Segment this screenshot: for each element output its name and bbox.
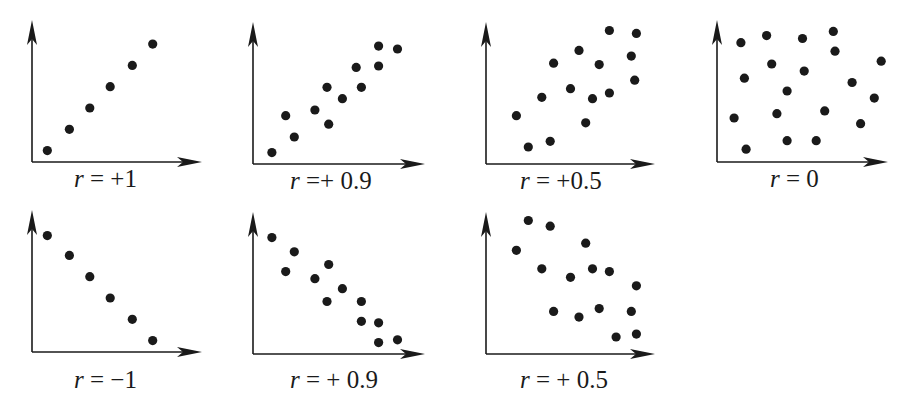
data-point xyxy=(537,264,546,273)
data-point xyxy=(595,304,604,313)
data-point xyxy=(43,231,52,240)
data-point xyxy=(357,297,366,306)
data-point xyxy=(595,60,604,69)
data-point xyxy=(281,267,290,276)
data-point xyxy=(630,76,639,85)
data-point xyxy=(627,307,636,316)
data-point xyxy=(632,281,641,290)
data-point xyxy=(762,31,771,40)
panel-label-r-plus-0-9-lower: r = + 0.9 xyxy=(290,367,378,392)
data-point xyxy=(324,260,333,269)
data-point xyxy=(549,307,558,316)
data-point xyxy=(812,136,821,145)
data-point xyxy=(612,332,621,341)
data-point xyxy=(740,74,749,83)
label-variable: r xyxy=(290,167,300,194)
label-variable: r xyxy=(520,366,530,393)
label-variable: r xyxy=(74,165,84,192)
data-point xyxy=(783,86,792,95)
data-point xyxy=(742,145,751,154)
data-point xyxy=(627,52,636,61)
data-point xyxy=(281,111,290,120)
label-value: = +0.5 xyxy=(530,167,602,194)
data-point xyxy=(549,59,558,68)
data-point xyxy=(322,83,331,92)
label-variable: r xyxy=(290,366,300,393)
data-point xyxy=(605,26,614,35)
data-point xyxy=(512,246,521,255)
scatter-panel-6 xyxy=(248,212,425,359)
label-value: = 0 xyxy=(780,165,819,192)
data-point xyxy=(148,40,157,49)
panel-label-r-zero: r = 0 xyxy=(770,166,819,191)
label-value: = + 0.5 xyxy=(530,366,608,393)
correlation-figure: r = +1 r =+ 0.9 r = +0.5 r = 0 r = −1 r … xyxy=(0,0,898,399)
data-point xyxy=(43,146,52,155)
data-point xyxy=(798,34,807,43)
scatter-panel-3 xyxy=(481,22,655,169)
data-point xyxy=(290,247,299,256)
data-point xyxy=(856,119,865,128)
data-point xyxy=(546,137,555,146)
data-point xyxy=(374,338,383,347)
data-point xyxy=(524,216,533,225)
data-point xyxy=(730,113,739,122)
panel-label-r-plus-1: r = +1 xyxy=(74,166,137,191)
data-point xyxy=(357,83,366,92)
data-point xyxy=(537,93,546,102)
label-value: =+ 0.9 xyxy=(300,167,372,194)
panel-label-r-plus-0-5: r = +0.5 xyxy=(520,168,602,193)
label-value: = + 0.9 xyxy=(300,366,378,393)
data-point xyxy=(736,38,745,47)
data-point xyxy=(605,88,614,97)
label-variable: r xyxy=(74,366,84,393)
data-point xyxy=(290,132,299,141)
panel-label-r-plus-0-5-lower: r = + 0.5 xyxy=(520,367,608,392)
data-point xyxy=(588,264,597,273)
data-point xyxy=(605,267,614,276)
data-point xyxy=(106,293,115,302)
data-point xyxy=(128,315,137,324)
data-point xyxy=(310,105,319,114)
data-point xyxy=(870,94,879,103)
data-point xyxy=(783,136,792,145)
label-value: = −1 xyxy=(84,366,137,393)
data-point xyxy=(512,111,521,120)
data-point xyxy=(374,318,383,327)
data-point xyxy=(85,272,94,281)
label-variable: r xyxy=(520,167,530,194)
data-point xyxy=(65,125,74,134)
scatter-panels-canvas xyxy=(0,0,898,399)
data-point xyxy=(393,44,402,53)
data-point xyxy=(848,78,857,87)
scatter-panel-5 xyxy=(27,210,202,357)
data-point xyxy=(772,109,781,118)
data-point xyxy=(574,46,583,55)
scatter-panel-1 xyxy=(27,20,202,167)
label-value: = +1 xyxy=(84,165,137,192)
data-point xyxy=(310,274,319,283)
data-point xyxy=(877,57,886,66)
data-point xyxy=(85,103,94,112)
data-point xyxy=(267,233,276,242)
data-point xyxy=(581,239,590,248)
data-point xyxy=(128,61,137,70)
data-point xyxy=(65,251,74,260)
data-point xyxy=(830,47,839,56)
data-point xyxy=(148,336,157,345)
data-point xyxy=(546,222,555,231)
data-point xyxy=(374,61,383,70)
panel-label-r-plus-0-9: r =+ 0.9 xyxy=(290,168,372,193)
data-point xyxy=(829,27,838,36)
data-point xyxy=(581,118,590,127)
data-point xyxy=(106,82,115,91)
data-point xyxy=(632,29,641,38)
data-point xyxy=(393,335,402,344)
data-point xyxy=(574,313,583,322)
data-point xyxy=(267,148,276,157)
data-point xyxy=(524,142,533,151)
data-point xyxy=(374,42,383,51)
data-point xyxy=(338,94,347,103)
data-point xyxy=(588,94,597,103)
scatter-panel-4 xyxy=(712,20,888,167)
